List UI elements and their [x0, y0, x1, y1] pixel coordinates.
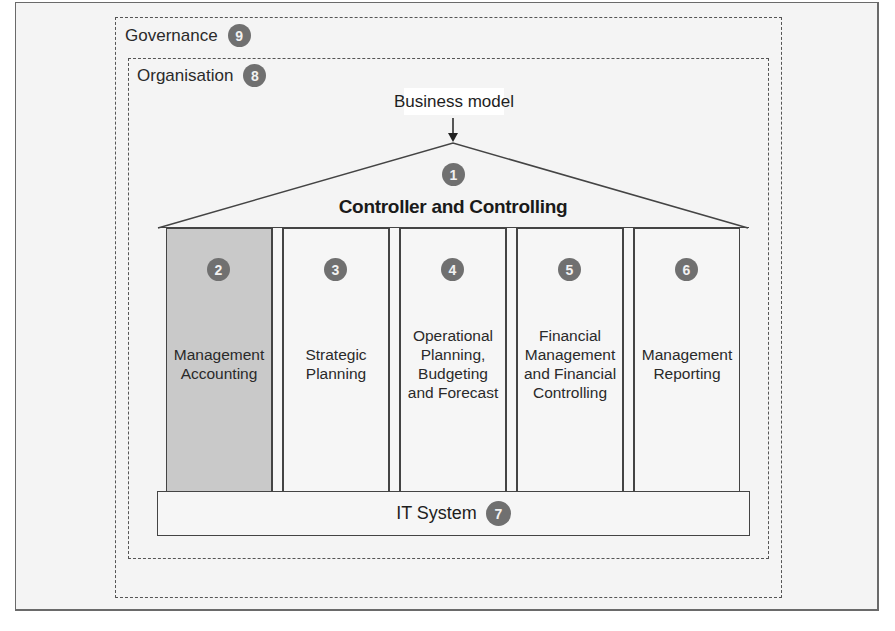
it-system-label: IT System — [396, 503, 477, 524]
pillar-label: Strategic Planning — [284, 229, 388, 491]
pillar-operational-planning: 4 Operational Planning, Budgeting and Fo… — [400, 228, 506, 491]
pillar-management-accounting: 2 Management Accounting — [166, 228, 272, 491]
arrow-down-icon — [448, 133, 458, 142]
pillar-management-reporting: 6 Management Reporting — [634, 228, 740, 491]
pillar-separator — [623, 228, 634, 491]
pillar-label: Operational Planning, Budgeting and Fore… — [401, 229, 505, 491]
pillar-strategic-planning: 3 Strategic Planning — [283, 228, 389, 491]
pillar-separator — [506, 228, 517, 491]
roof-title: Controller and Controlling — [300, 196, 606, 218]
it-system-number-badge: 7 — [486, 501, 511, 526]
pillar-label: Financial Management and Financial Contr… — [518, 229, 622, 491]
it-system-foundation: IT System 7 — [157, 491, 750, 536]
roof-number-badge: 1 — [442, 163, 465, 186]
pillar-separator — [272, 228, 283, 491]
pillar-label: Management Accounting — [167, 229, 271, 491]
pillar-separator — [389, 228, 400, 491]
pillar-financial-management: 5 Financial Management and Financial Con… — [517, 228, 623, 491]
pillar-label: Management Reporting — [635, 229, 739, 491]
